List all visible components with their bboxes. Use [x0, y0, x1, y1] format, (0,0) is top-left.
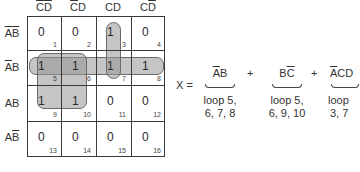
term-var: C: [287, 67, 295, 79]
cell-value: 1: [38, 94, 45, 108]
row-var-b: B: [12, 97, 19, 109]
cell-value: 1: [107, 59, 114, 73]
col-var-d: D: [44, 1, 52, 13]
term-b-cbar: BC: [272, 67, 302, 79]
kmap-cell-10: 110: [61, 85, 95, 121]
col-var-c: C: [70, 1, 78, 13]
kmap-cell-1: 01: [27, 16, 61, 51]
row-header-a-bbar: AB: [0, 131, 24, 143]
row-var-a: A: [5, 131, 12, 143]
cell-index: 10: [83, 111, 91, 118]
kmap-cell-2: 02: [61, 16, 95, 51]
cell-index: 1: [53, 41, 57, 48]
cell-index: 14: [83, 147, 91, 154]
cell-value: 1: [38, 59, 45, 73]
row-header-a-b: AB: [0, 97, 24, 109]
term-note-loop-3-7: loop 3, 7: [328, 94, 358, 120]
note-line: 3, 7: [328, 107, 358, 120]
kmap-cell-3: 13: [96, 16, 130, 51]
row-var-b: B: [12, 61, 19, 73]
column-header-c-dbar: CD: [131, 1, 165, 13]
term-var: B: [220, 67, 227, 79]
cell-index: 2: [87, 41, 91, 48]
cell-index: 5: [53, 75, 57, 82]
term-note-loop-5-6-7-8: loop 5, 6, 7, 8: [195, 94, 245, 120]
kmap-cell-5: 15: [27, 50, 61, 85]
cell-index: 6: [87, 75, 91, 82]
row-var-b: B: [12, 27, 19, 39]
cell-value: 0: [107, 94, 114, 108]
column-header-cbar-d: CD: [61, 1, 95, 13]
note-line: loop 5,: [260, 94, 314, 107]
col-var-d: D: [78, 1, 86, 13]
kmap-cell-14: 014: [61, 121, 95, 157]
col-var-c: C: [36, 1, 44, 13]
cell-value: 0: [142, 130, 149, 144]
term-note-loop-5-6-9-10: loop 5, 6, 9, 10: [260, 94, 314, 120]
row-header-abar-bbar: AB: [0, 27, 24, 39]
equation-lhs: X =: [176, 79, 193, 91]
kmap-cell-8: 18: [131, 50, 165, 85]
term-var: A: [213, 67, 220, 79]
row-header-abar-b: AB: [0, 61, 24, 73]
kmap-cell-16: 016: [131, 121, 165, 157]
cell-index: 9: [53, 111, 57, 118]
cell-value: 0: [142, 94, 149, 108]
underbrace: [331, 84, 359, 88]
term-var: CD: [337, 67, 353, 79]
col-var-d: D: [113, 1, 121, 13]
kmap-cell-12: 012: [131, 85, 165, 121]
plus-sign: +: [311, 67, 317, 79]
row-var-b: B: [12, 131, 19, 143]
cell-value: 0: [142, 25, 149, 39]
cell-index: 7: [122, 75, 126, 82]
underbrace: [205, 84, 235, 88]
row-var-a: A: [5, 27, 12, 39]
cell-index: 12: [153, 111, 161, 118]
note-line: loop 5,: [195, 94, 245, 107]
col-var-d: D: [148, 1, 156, 13]
kmap-cell-6: 16: [61, 50, 95, 85]
cell-value: 0: [38, 130, 45, 144]
cell-value: 1: [72, 59, 79, 73]
kmap-cell-9: 19: [27, 85, 61, 121]
cell-index: 16: [153, 147, 161, 154]
column-header-cbar-dbar: CD: [27, 1, 61, 13]
cell-value: 1: [72, 94, 79, 108]
cell-index: 4: [157, 41, 161, 48]
kmap-cell-15: 015: [96, 121, 130, 157]
plus-sign: +: [247, 67, 253, 79]
cell-value: 0: [72, 25, 79, 39]
note-line: 6, 7, 8: [195, 107, 245, 120]
row-var-a: A: [5, 61, 12, 73]
kmap-cell-11: 011: [96, 85, 130, 121]
kmap-cell-4: 04: [131, 16, 165, 51]
underbrace: [272, 84, 302, 88]
row-var-a: A: [5, 97, 12, 109]
cell-value: 0: [38, 25, 45, 39]
cell-index: 3: [122, 41, 126, 48]
col-var-c: C: [140, 1, 148, 13]
cell-value: 1: [107, 25, 114, 39]
term-abar-c-d: ACD: [330, 67, 360, 79]
note-line: loop: [328, 94, 358, 107]
kmap-cell-13: 013: [27, 121, 61, 157]
cell-index: 11: [119, 111, 126, 118]
cell-value: 0: [107, 130, 114, 144]
note-line: 6, 9, 10: [260, 107, 314, 120]
cell-index: 15: [118, 147, 126, 154]
term-abar-b: AB: [205, 67, 235, 79]
cell-value: 1: [142, 59, 149, 73]
term-var: B: [279, 67, 286, 79]
cell-index: 13: [49, 147, 57, 154]
col-var-c: C: [105, 1, 113, 13]
column-header-c-d: CD: [96, 1, 130, 13]
kmap-cell-7: 17: [96, 50, 130, 85]
cell-index: 8: [157, 75, 161, 82]
cell-value: 0: [72, 130, 79, 144]
